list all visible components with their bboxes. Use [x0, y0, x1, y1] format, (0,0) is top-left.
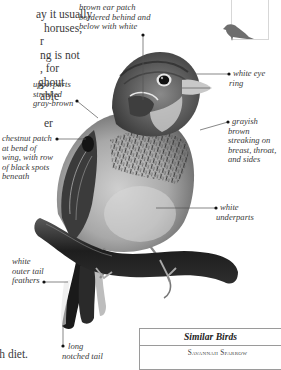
callout-chestnut-patch: chestnut patch at bend of wing, with row…: [2, 134, 53, 182]
bird-silhouette-icon: [223, 24, 254, 41]
similar-birds-title: Similar Birds: [140, 329, 281, 346]
callout-eye-ring: white eye ring: [233, 69, 265, 88]
similar-birds-box: Similar Birds Savannah Sparrow: [139, 328, 281, 370]
callout-upperparts: upperparts streaked gray-brown: [33, 80, 73, 109]
callout-outer-tail: white outer tail feathers: [12, 257, 44, 286]
bird-head: [112, 52, 212, 136]
similar-bird-item[interactable]: Savannah Sparrow: [140, 346, 281, 357]
callout-tail: long notched tail: [68, 342, 103, 361]
body-text-footer: ough diet.: [0, 348, 28, 360]
callout-underparts: white underparts: [220, 203, 254, 222]
callout-ear-patch: brown ear patch bordered behind and belo…: [79, 3, 150, 32]
bird-body: [57, 112, 194, 252]
callout-breast-streaking: grayish brown streaking on breast, throa…: [232, 117, 276, 165]
